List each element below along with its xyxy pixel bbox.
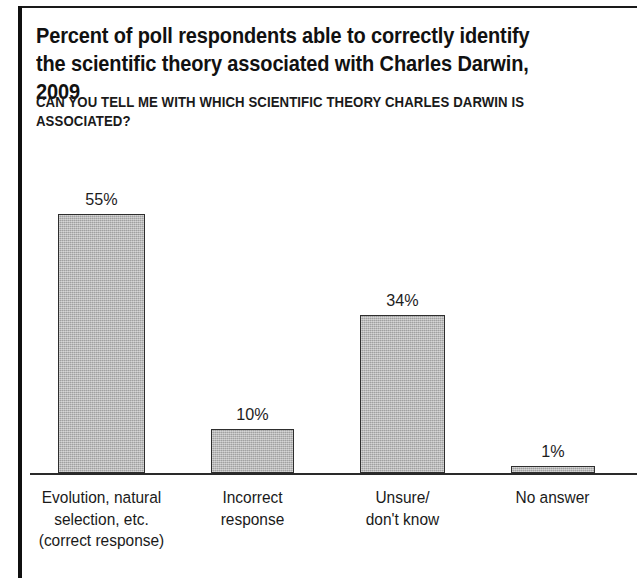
category-label-line: Unsure/ bbox=[332, 487, 474, 509]
category-label-evolution-natural-selection: Evolution, natural selection, etc. (corr… bbox=[18, 487, 184, 552]
bar-value-label: 1% bbox=[513, 442, 593, 462]
bar-value-label: 10% bbox=[213, 405, 292, 425]
category-label-line: Incorrect bbox=[182, 487, 324, 509]
category-label-no-answer: No answer bbox=[482, 487, 624, 509]
bar-value-label: 55% bbox=[60, 190, 143, 210]
bar-value-label: 34% bbox=[362, 291, 443, 311]
bar-incorrect-response bbox=[211, 429, 294, 473]
category-label-line: Evolution, natural bbox=[18, 487, 184, 509]
category-label-line: response bbox=[182, 509, 324, 531]
bar-unsure-dont-know bbox=[360, 315, 445, 473]
category-label-unsure-dont-know: Unsure/ don't know bbox=[332, 487, 474, 530]
category-label-line: selection, etc. bbox=[18, 509, 184, 531]
category-label-line: (correct response) bbox=[18, 530, 184, 552]
category-label-line: don't know bbox=[332, 509, 474, 531]
chart-figure: Percent of poll respondents able to corr… bbox=[0, 0, 637, 578]
x-axis-baseline bbox=[30, 473, 637, 475]
bar-no-answer bbox=[511, 466, 595, 473]
category-label-line: No answer bbox=[482, 487, 624, 509]
bar-chart-plot-area: 55% Evolution, natural selection, etc. (… bbox=[0, 0, 637, 578]
bar-evolution-natural-selection bbox=[58, 214, 145, 473]
category-label-incorrect-response: Incorrect response bbox=[182, 487, 324, 530]
